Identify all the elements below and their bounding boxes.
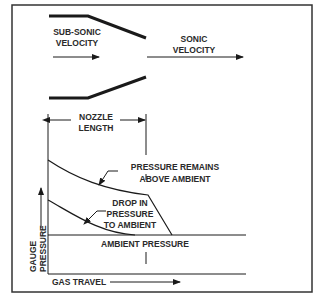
subsonic-label-1: SUB-SONIC [53,27,101,37]
nozzle-length-label-1: NOZZLE [79,112,113,122]
lower-curve-label-2: PRESSURE [107,209,154,219]
sonic-label-2: VELOCITY [173,45,216,55]
nozzle-lower-wall [49,77,146,98]
nozzle-length-label-2: LENGTH [79,123,114,133]
x-axis-label: GAS TRAVEL [52,277,106,287]
nozzle-pressure-diagram: SUB-SONIC VELOCITY SONIC VELOCITY NOZZLE… [0,0,318,299]
y-axis-label-2: PRESSURE [38,225,48,272]
ambient-pressure-label: AMBIENT PRESSURE [101,239,189,249]
upper-curve-leader [99,171,118,185]
lower-curve-label-1: DROP IN [112,198,147,208]
sonic-label-1: SONIC [181,34,208,44]
upper-curve-label-1: PRESSURE REMAINS [131,162,220,172]
lower-curve-label-3: TO AMBIENT [104,220,157,230]
upper-curve-label-2: ABOVE AMBIENT [140,174,212,184]
y-axis-label-1: GAUGE [28,241,38,273]
subsonic-label-2: VELOCITY [56,38,99,48]
